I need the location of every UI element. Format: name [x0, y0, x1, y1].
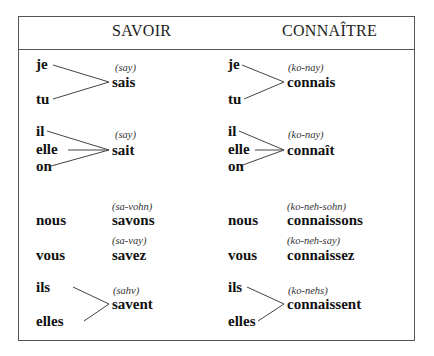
pronoun-elles: elles — [228, 314, 256, 329]
pronunciation: (ko-nay) — [288, 129, 324, 140]
pronoun-on: on — [228, 159, 244, 174]
pronoun-tu: tu — [228, 92, 241, 107]
pronoun-vous: vous — [228, 248, 257, 263]
pronoun-elle: elle — [36, 142, 58, 157]
verb-connaissent: connaissent — [287, 297, 361, 312]
pronunciation: (ko-nehs) — [288, 285, 328, 296]
pronoun-nous: nous — [36, 213, 66, 228]
pronunciation: (sahv) — [113, 285, 139, 296]
pronoun-ils: ils — [36, 280, 50, 295]
pronunciation: (ko-nay) — [288, 62, 324, 73]
connector-lines — [0, 0, 434, 356]
verb-savez: savez — [112, 248, 146, 263]
pronoun-tu: tu — [36, 92, 49, 107]
verb-sais: sais — [112, 75, 135, 90]
pronoun-je: je — [228, 57, 240, 72]
pronoun-elle: elle — [228, 142, 250, 157]
pronoun-il: il — [228, 124, 236, 139]
pronoun-ils: ils — [228, 280, 242, 295]
pronoun-je: je — [36, 57, 48, 72]
pronoun-on: on — [36, 159, 52, 174]
verb-savent: savent — [112, 297, 153, 312]
pronunciation: (ko-neh-say) — [287, 235, 340, 246]
pronoun-elles: elles — [36, 314, 64, 329]
pronoun-vous: vous — [36, 248, 65, 263]
pronunciation: (say) — [115, 129, 136, 140]
verb-connait: connaît — [287, 143, 335, 158]
pronunciation: (ko-neh-sohn) — [287, 201, 346, 212]
pronunciation: (say) — [115, 62, 136, 73]
verb-connaissez: connaissez — [287, 248, 355, 263]
pronunciation: (sa-vohn) — [112, 201, 152, 212]
verb-sait: sait — [112, 143, 135, 158]
verb-savons: savons — [112, 213, 155, 228]
verb-connais: connais — [287, 75, 335, 90]
pronoun-nous: nous — [228, 213, 258, 228]
verb-connaissons: connaissons — [287, 213, 363, 228]
pronunciation: (sa-vay) — [112, 235, 146, 246]
pronoun-il: il — [36, 124, 44, 139]
